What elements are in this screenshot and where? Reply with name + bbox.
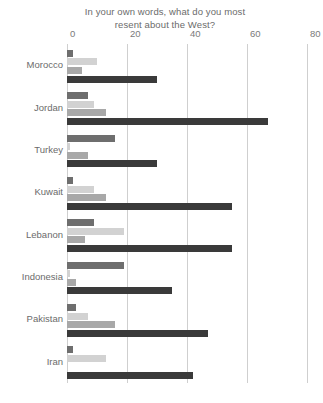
bar <box>67 330 208 337</box>
category-label-morocco: Morocco <box>1 59 63 70</box>
bar-group <box>67 177 307 210</box>
bar <box>67 152 88 159</box>
gridline-80 <box>307 44 308 383</box>
bar <box>67 304 76 311</box>
bar <box>67 245 232 252</box>
category-label-iran: Iran <box>1 356 63 367</box>
x-tick-label: 20 <box>130 28 141 39</box>
bar <box>67 186 94 193</box>
chart-container: In your own words, what do you most rese… <box>0 0 323 403</box>
y-axis-category-labels: MoroccoJordanTurkeyKuwaitLebanonIndonesi… <box>0 44 63 383</box>
category-label-jordan: Jordan <box>1 102 63 113</box>
bar <box>67 50 73 57</box>
x-tick-label: 80 <box>310 28 321 39</box>
x-tick-label: 40 <box>190 28 201 39</box>
category-label-indonesia: Indonesia <box>1 271 63 282</box>
bar <box>67 135 115 142</box>
x-tick-label: 0 <box>70 28 75 39</box>
category-label-lebanon: Lebanon <box>1 229 63 240</box>
bar <box>67 109 106 116</box>
plot-area: 020406080 <box>67 44 307 383</box>
bar <box>67 219 94 226</box>
bar <box>67 313 88 320</box>
bar <box>67 355 106 362</box>
bar <box>67 321 115 328</box>
bar-group <box>67 92 307 125</box>
bar-group <box>67 304 307 337</box>
bar <box>67 194 106 201</box>
bar-group <box>67 219 307 252</box>
x-tick-label: 60 <box>250 28 261 39</box>
bar <box>67 67 82 74</box>
bar <box>67 177 73 184</box>
bar <box>67 58 97 65</box>
chart-title-line-1: In your own words, what do you most <box>40 5 290 18</box>
bar <box>67 92 88 99</box>
bar <box>67 279 76 286</box>
bar <box>67 262 124 269</box>
bar <box>67 346 73 353</box>
bar <box>67 143 70 150</box>
bar <box>67 118 268 125</box>
bar-group <box>67 135 307 168</box>
category-label-kuwait: Kuwait <box>1 186 63 197</box>
bar <box>67 228 124 235</box>
category-label-pakistan: Pakistan <box>1 313 63 324</box>
category-label-turkey: Turkey <box>1 144 63 155</box>
bar-group <box>67 346 307 379</box>
bar-group <box>67 262 307 295</box>
bar-group <box>67 50 307 83</box>
bar <box>67 160 157 167</box>
bar <box>67 287 172 294</box>
bar <box>67 372 193 379</box>
bar <box>67 76 157 83</box>
bar <box>67 270 70 277</box>
bar <box>67 236 85 243</box>
bar <box>67 203 232 210</box>
bar <box>67 101 94 108</box>
